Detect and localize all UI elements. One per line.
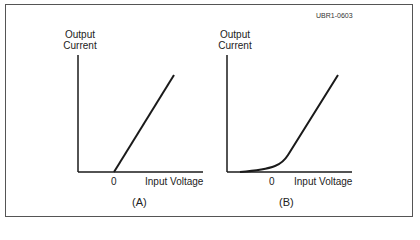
- panel-b-zero-label: 0: [269, 176, 275, 187]
- panel-b-x-label: Input Voltage: [294, 176, 352, 187]
- y-label-line1: Output: [50, 29, 110, 40]
- y-label-line2: Current: [50, 40, 110, 51]
- panel-a-caption: (A): [132, 196, 147, 208]
- panel-b-caption: (B): [279, 196, 294, 208]
- panel-a-y-label: Output Current: [50, 29, 110, 51]
- panel-a-axes: [78, 55, 203, 172]
- panel-b-y-label: Output Current: [205, 29, 265, 51]
- y-label-line2: Current: [205, 40, 265, 51]
- panel-a-x-label: Input Voltage: [145, 176, 203, 187]
- panel-a-curve: [114, 75, 174, 172]
- panel-b-curve: [240, 75, 338, 172]
- y-label-line1: Output: [205, 29, 265, 40]
- panel-a-zero-label: 0: [111, 176, 117, 187]
